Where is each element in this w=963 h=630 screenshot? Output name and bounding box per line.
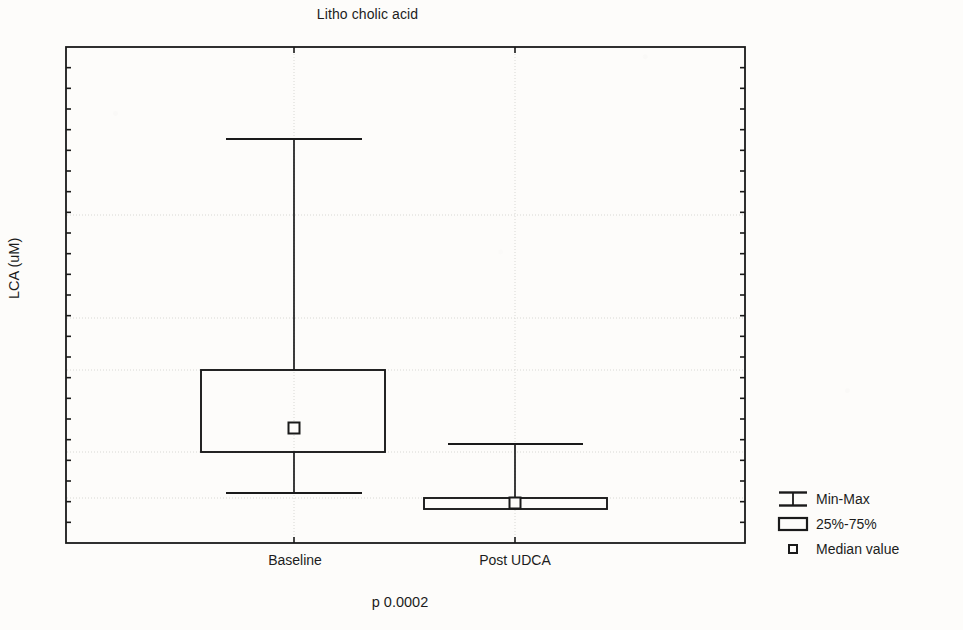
quartile-box <box>201 370 385 452</box>
chart-legend: Min-Max 25%-75% Median value <box>770 486 955 561</box>
vertical-gridlines <box>294 48 515 542</box>
legend-item-quartiles: 25%-75% <box>770 511 955 536</box>
box-whisker-series <box>201 139 607 509</box>
legend-label-min-max: Min-Max <box>816 491 870 507</box>
x-axis-category-post-udca: Post UDCA <box>455 552 575 568</box>
plot-frame <box>66 47 745 543</box>
median-marker <box>510 498 521 509</box>
chart-page: Litho cholic acid LCA (uM) Baseline Post… <box>0 0 963 630</box>
box-group-baseline <box>201 139 385 493</box>
legend-label-quartiles: 25%-75% <box>816 516 877 532</box>
box-group-post-udca <box>424 444 607 509</box>
p-value-annotation: p 0.0002 <box>300 594 500 610</box>
median-marker <box>289 423 300 434</box>
x-axis-category-baseline: Baseline <box>235 552 355 568</box>
legend-label-median: Median value <box>816 541 899 557</box>
median-marker-icon <box>770 539 816 559</box>
min-max-icon <box>770 489 816 509</box>
horizontal-gridlines <box>67 215 744 498</box>
x-axis-ticks <box>294 47 515 543</box>
legend-item-min-max: Min-Max <box>770 486 955 511</box>
y-axis-ticks <box>66 68 745 523</box>
legend-item-median: Median value <box>770 536 955 561</box>
quartile-box-icon <box>770 514 816 534</box>
